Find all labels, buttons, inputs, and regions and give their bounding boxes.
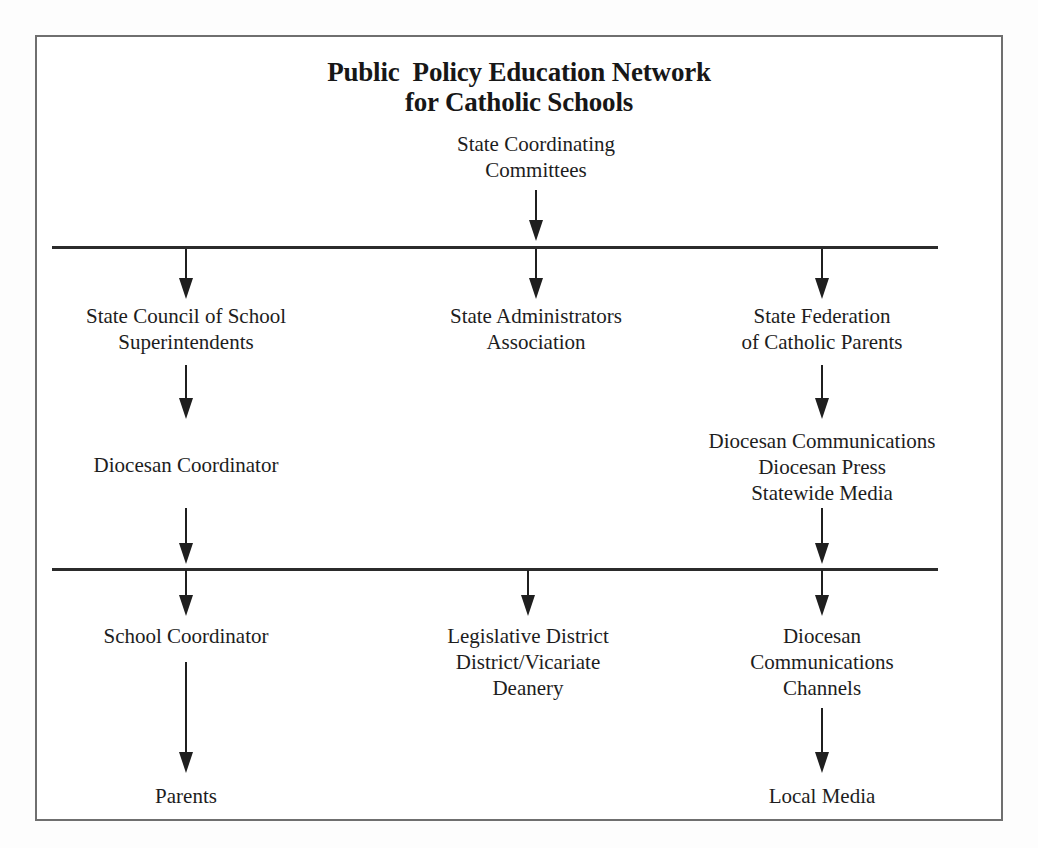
arrow-head — [815, 595, 829, 616]
node-diocesan-communications-channels: Diocesan Communications Channels — [672, 623, 972, 701]
node-line: District/Vicariate — [378, 649, 678, 675]
node-line: Statewide Media — [672, 480, 972, 506]
arrow-state-federation-to-diocesan-communications — [813, 365, 831, 425]
node-line: Deanery — [378, 675, 678, 701]
page-title-line-1: Public Policy Education Network — [0, 57, 1038, 87]
arrow-head — [529, 278, 543, 299]
node-line: Parents — [36, 783, 336, 809]
arrow-rule-to-diocesan-channels — [813, 570, 831, 622]
arrow-head — [815, 543, 829, 564]
arrow-rule-to-state-federation — [813, 249, 831, 305]
arrow-head — [815, 752, 829, 773]
node-legislative-district: Legislative District District/Vicariate … — [378, 623, 678, 701]
node-line: Association — [386, 329, 686, 355]
arrow-head — [529, 220, 543, 241]
arrow-stem — [821, 708, 823, 758]
node-line: State Coordinating — [386, 131, 686, 157]
node-state-administrators-association: State Administrators Association — [386, 303, 686, 355]
arrow-head — [179, 752, 193, 773]
arrow-rule-to-school-coordinator — [177, 570, 195, 622]
arrow-school-coordinator-to-parents — [177, 662, 195, 778]
arrow-diocesan-communications-to-rule — [813, 508, 831, 570]
node-line: Channels — [672, 675, 972, 701]
node-local-media: Local Media — [672, 783, 972, 809]
node-state-council-of-school-superintendents: State Council of School Superintendents — [36, 303, 336, 355]
node-parents: Parents — [36, 783, 336, 809]
arrow-rule-to-state-administrators — [527, 249, 545, 305]
node-diocesan-communications-group: Diocesan Communications Diocesan Press S… — [672, 428, 972, 506]
node-line: Diocesan — [672, 623, 972, 649]
node-line: State Council of School — [36, 303, 336, 329]
node-line: of Catholic Parents — [672, 329, 972, 355]
node-school-coordinator: School Coordinator — [36, 623, 336, 649]
node-line: State Federation — [672, 303, 972, 329]
node-diocesan-coordinator: Diocesan Coordinator — [36, 452, 336, 478]
arrow-head — [521, 595, 535, 616]
arrow-head — [815, 278, 829, 299]
arrow-stem — [185, 662, 187, 758]
page-title-line-2: for Catholic Schools — [0, 87, 1038, 117]
node-line: Diocesan Press — [672, 454, 972, 480]
node-state-coordinating-committees: State Coordinating Committees — [386, 131, 686, 183]
arrow-head — [179, 595, 193, 616]
node-state-federation-of-catholic-parents: State Federation of Catholic Parents — [672, 303, 972, 355]
arrow-head — [815, 398, 829, 419]
node-line: Committees — [386, 157, 686, 183]
node-line: Local Media — [672, 783, 972, 809]
node-line: Legislative District — [378, 623, 678, 649]
arrow-diocesan-channels-to-local-media — [813, 708, 831, 778]
diagram-page: Public Policy Education Network for Cath… — [0, 0, 1038, 848]
arrow-committees-to-rule — [527, 190, 545, 248]
arrow-head — [179, 543, 193, 564]
arrow-rule-to-legislative-district — [519, 570, 537, 622]
node-line: Diocesan Coordinator — [36, 452, 336, 478]
arrow-diocesan-coordinator-to-rule — [177, 508, 195, 570]
node-line: School Coordinator — [36, 623, 336, 649]
arrow-state-council-to-diocesan-coordinator — [177, 365, 195, 425]
node-line: Diocesan Communications — [672, 428, 972, 454]
node-line: Communications — [672, 649, 972, 675]
node-line: Superintendents — [36, 329, 336, 355]
arrow-head — [179, 398, 193, 419]
node-line: State Administrators — [386, 303, 686, 329]
arrow-rule-to-state-council — [177, 249, 195, 305]
arrow-head — [179, 278, 193, 299]
